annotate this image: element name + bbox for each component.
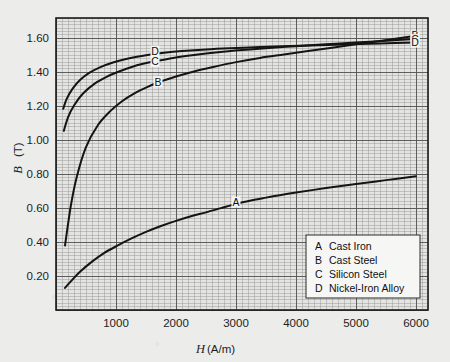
x-tick-label: 5000	[343, 317, 369, 329]
curve-edge-label-d: D	[411, 36, 419, 48]
y-tick-label: 1.20	[27, 100, 49, 112]
y-tick-label: 0.40	[27, 236, 49, 248]
y-axis-title: B (T)	[11, 142, 25, 174]
legend-label-b: Cast Steel	[329, 254, 377, 266]
x-tick-label: 1000	[103, 317, 129, 329]
legend-label-d: Nickel-Iron Alloy	[329, 282, 405, 294]
y-axis-unit: (T)	[12, 142, 24, 157]
y-tick-label: 0.60	[27, 202, 49, 214]
x-tick-label: 2000	[163, 317, 189, 329]
legend-key-b: B	[315, 254, 322, 266]
x-axis-symbol: H	[195, 342, 206, 356]
x-axis-title: H (A/m)	[195, 342, 235, 356]
curve-label-a: A	[232, 196, 239, 208]
x-tick-label: 3000	[223, 317, 249, 329]
y-tick-label: 1.40	[27, 66, 49, 78]
bh-curve-chart: 100020003000400050006000 0.200.400.600.8…	[0, 0, 450, 362]
curve-edge-labels: BCD	[411, 29, 420, 48]
x-axis-unit: (A/m)	[207, 343, 235, 355]
legend-label-c: Silicon Steel	[329, 268, 387, 280]
x-tick-label: 6000	[403, 317, 429, 329]
y-axis-symbol: B	[11, 166, 25, 174]
legend-box: ACast IronBCast SteelCSilicon SteelDNick…	[306, 235, 420, 298]
y-tick-label: 0.80	[27, 168, 49, 180]
legend-label-a: Cast Iron	[329, 240, 372, 252]
legend-key-c: C	[315, 268, 323, 280]
y-tick-label: 1.00	[27, 134, 49, 146]
curve-label-d: D	[151, 45, 159, 57]
curve-label-b: B	[154, 76, 161, 88]
x-tick-label: 4000	[283, 317, 309, 329]
y-tick-label: 0.20	[27, 270, 49, 282]
chart-canvas: 100020003000400050006000 0.200.400.600.8…	[0, 0, 450, 362]
legend-key-a: A	[315, 240, 322, 252]
y-tick-label: 1.60	[27, 32, 49, 44]
legend-key-d: D	[315, 282, 323, 294]
